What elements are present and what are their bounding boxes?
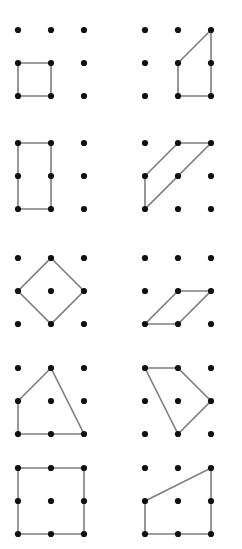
grid-dot-c1-r1	[142, 465, 148, 471]
geoboard-panel-2-right	[137, 135, 219, 217]
shape-diamond-rhombus	[10, 250, 92, 332]
grid-dot-c2-r2	[48, 173, 54, 179]
grid-dot-c3-r1	[81, 27, 87, 33]
grid-dot-c2-r1	[175, 465, 181, 471]
grid-dot-c1-r3	[142, 321, 148, 327]
polygon-square	[18, 63, 51, 96]
grid-dot-c2-r3	[48, 206, 54, 212]
grid-dot-c1-r3	[15, 93, 21, 99]
grid-dot-c3-r3	[81, 531, 87, 537]
shape-unit-square-bottom-left	[10, 22, 92, 104]
grid-dot-c2-r2	[48, 498, 54, 504]
grid-dot-c2-r3	[48, 531, 54, 537]
shape-right-trapezoid	[137, 22, 219, 104]
grid-dot-c3-r3	[208, 321, 214, 327]
shape-irregular-quadrilateral-peak	[10, 360, 92, 442]
grid-dot-c3-r2	[208, 173, 214, 179]
grid-dot-c1-r2	[142, 498, 148, 504]
grid-dot-c2-r2	[175, 60, 181, 66]
grid-dot-c1-r2	[15, 288, 21, 294]
grid-dot-c1-r1	[15, 255, 21, 261]
grid-dot-c2-r3	[175, 321, 181, 327]
geoboard-panel-2-left	[10, 135, 92, 217]
grid-dot-c2-r2	[175, 288, 181, 294]
grid-dot-c2-r1	[48, 365, 54, 371]
grid-dot-c1-r3	[15, 206, 21, 212]
grid-dot-c1-r2	[15, 498, 21, 504]
grid-dot-c3-r1	[208, 365, 214, 371]
grid-dot-c3-r1	[208, 465, 214, 471]
grid-dot-c3-r1	[81, 365, 87, 371]
grid-dot-c2-r3	[175, 531, 181, 537]
grid-dot-c3-r1	[81, 255, 87, 261]
grid-dot-c2-r1	[175, 255, 181, 261]
grid-dot-c2-r2	[175, 173, 181, 179]
grid-dot-c2-r3	[48, 321, 54, 327]
grid-dot-c2-r3	[48, 93, 54, 99]
grid-dot-c1-r3	[142, 431, 148, 437]
grid-dot-c1-r1	[142, 365, 148, 371]
shape-large-square-full-grid	[10, 460, 92, 542]
grid-dot-c2-r1	[48, 27, 54, 33]
grid-dot-c2-r3	[175, 431, 181, 437]
shape-right-trapezoid-wide	[137, 460, 219, 542]
grid-dot-c3-r3	[81, 206, 87, 212]
shape-low-parallelogram	[137, 250, 219, 332]
grid-dot-c3-r2	[81, 173, 87, 179]
grid-dot-c3-r2	[81, 60, 87, 66]
grid-dot-c1-r2	[15, 60, 21, 66]
grid-dot-c1-r3	[142, 206, 148, 212]
grid-dot-c2-r3	[48, 431, 54, 437]
grid-dot-c3-r3	[81, 321, 87, 327]
grid-dot-c3-r1	[208, 140, 214, 146]
grid-dot-c1-r1	[142, 27, 148, 33]
grid-dot-c3-r3	[208, 93, 214, 99]
grid-dot-c1-r2	[142, 398, 148, 404]
grid-dot-c2-r2	[48, 288, 54, 294]
geoboard-panel-1-right	[137, 22, 219, 104]
geoboard-worksheet	[0, 0, 242, 549]
grid-dot-c1-r3	[15, 321, 21, 327]
polygon-parallelogram	[145, 291, 211, 324]
grid-dot-c1-r1	[142, 255, 148, 261]
grid-dot-c1-r2	[142, 288, 148, 294]
shape-irregular-quadrilateral-kite	[137, 360, 219, 442]
grid-dot-c1-r1	[142, 140, 148, 146]
grid-dot-c1-r1	[15, 140, 21, 146]
polygon-rectangle	[18, 143, 51, 209]
grid-dot-c3-r3	[208, 206, 214, 212]
grid-dot-c1-r3	[142, 531, 148, 537]
geoboard-panel-5-right	[137, 460, 219, 542]
geoboard-panel-3-left	[10, 250, 92, 332]
grid-dot-c2-r1	[175, 365, 181, 371]
grid-dot-c3-r3	[81, 93, 87, 99]
grid-dot-c1-r1	[15, 365, 21, 371]
grid-dot-c1-r2	[15, 173, 21, 179]
grid-dot-c3-r1	[81, 465, 87, 471]
grid-dot-c3-r2	[208, 398, 214, 404]
grid-dot-c2-r3	[175, 93, 181, 99]
grid-dot-c2-r1	[48, 465, 54, 471]
grid-dot-c2-r2	[48, 398, 54, 404]
grid-dot-c3-r3	[208, 431, 214, 437]
grid-dot-c1-r1	[15, 465, 21, 471]
grid-dot-c1-r2	[142, 60, 148, 66]
grid-dot-c2-r2	[48, 60, 54, 66]
grid-dot-c3-r2	[208, 60, 214, 66]
grid-dot-c2-r2	[175, 498, 181, 504]
geoboard-panel-3-right	[137, 250, 219, 332]
grid-dot-c3-r1	[81, 140, 87, 146]
grid-dot-c3-r2	[208, 288, 214, 294]
grid-dot-c3-r1	[208, 27, 214, 33]
grid-dot-c3-r1	[208, 255, 214, 261]
shape-slanted-parallelogram-up	[137, 135, 219, 217]
geoboard-panel-1-left	[10, 22, 92, 104]
grid-dot-c2-r1	[175, 27, 181, 33]
geoboard-panel-4-right	[137, 360, 219, 442]
grid-dot-c2-r2	[175, 398, 181, 404]
grid-dot-c1-r2	[15, 398, 21, 404]
polygon-trapezoid	[178, 30, 211, 96]
grid-dot-c3-r2	[208, 498, 214, 504]
grid-dot-c2-r1	[48, 255, 54, 261]
grid-dot-c3-r2	[81, 288, 87, 294]
